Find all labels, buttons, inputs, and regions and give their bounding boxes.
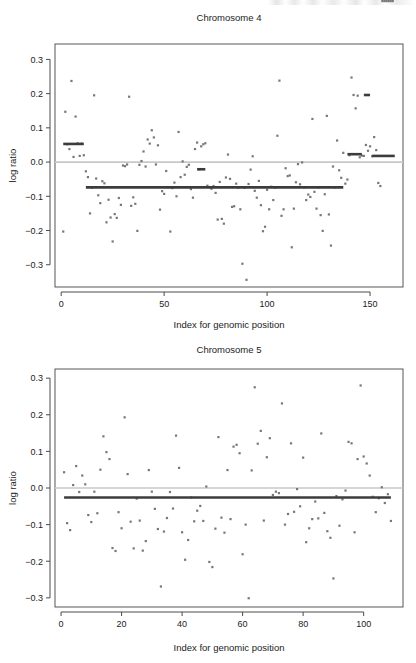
- data-point: [72, 484, 74, 486]
- data-point: [177, 131, 179, 133]
- data-point: [301, 161, 303, 163]
- data-point: [105, 451, 107, 453]
- data-point: [103, 182, 105, 184]
- data-point: [161, 190, 163, 192]
- data-point: [114, 213, 116, 215]
- data-point: [252, 155, 254, 157]
- data-point: [355, 107, 357, 109]
- data-point: [172, 507, 174, 509]
- data-point: [159, 209, 161, 211]
- data-point: [142, 150, 144, 152]
- data-point: [268, 208, 270, 210]
- data-point: [383, 0, 385, 2]
- data-point: [202, 520, 204, 522]
- data-point: [326, 530, 328, 532]
- data-point: [184, 174, 186, 176]
- data-point: [387, 0, 389, 2]
- data-point: [336, 139, 338, 141]
- data-point: [105, 221, 107, 223]
- data-point: [120, 204, 122, 206]
- data-point: [149, 142, 151, 144]
- data-point: [311, 518, 313, 520]
- data-point: [293, 511, 295, 513]
- data-point: [369, 145, 371, 147]
- data-point: [151, 491, 153, 493]
- data-point: [293, 208, 295, 210]
- data-point: [296, 488, 298, 490]
- data-point: [96, 512, 98, 514]
- data-point: [229, 178, 231, 180]
- data-point: [233, 205, 235, 207]
- data-point: [217, 436, 219, 438]
- data-point: [93, 94, 95, 96]
- data-point: [81, 474, 83, 476]
- data-point: [367, 150, 369, 152]
- data-point: [117, 511, 119, 513]
- data-point: [250, 169, 252, 171]
- data-point: [278, 80, 280, 82]
- data-point: [357, 95, 359, 97]
- data-point: [238, 452, 240, 454]
- data-point: [330, 244, 332, 246]
- x-tick-label: 50: [159, 299, 169, 309]
- data-point: [280, 215, 282, 217]
- data-point: [385, 0, 387, 2]
- x-tick-label: 150: [363, 299, 378, 309]
- data-point: [299, 183, 301, 185]
- data-point: [178, 467, 180, 469]
- x-tick-label: 100: [260, 299, 275, 309]
- data-point: [377, 182, 379, 184]
- data-point: [299, 505, 301, 507]
- y-tick-label: 0.3: [30, 373, 43, 383]
- data-point: [353, 531, 355, 533]
- data-point: [289, 174, 291, 176]
- data-point: [194, 148, 196, 150]
- data-point: [264, 226, 266, 228]
- data-point: [200, 145, 202, 147]
- data-point: [95, 177, 97, 179]
- data-point: [338, 525, 340, 527]
- chart-panel-chromosome-5: Chromosome 50.30.20.10.0−0.1−0.2−0.30204…: [0, 337, 416, 663]
- data-point: [260, 204, 262, 206]
- data-point: [93, 491, 95, 493]
- data-point: [365, 144, 367, 146]
- data-point: [390, 0, 392, 2]
- scatter-plot-chromosome-4: Chromosome 40.30.20.10.0−0.1−0.2−0.30501…: [0, 0, 416, 340]
- data-point: [226, 469, 228, 471]
- data-point: [63, 471, 65, 473]
- data-point: [169, 230, 171, 232]
- data-point: [262, 230, 264, 232]
- data-point: [287, 513, 289, 515]
- data-point: [169, 491, 171, 493]
- data-point: [116, 217, 118, 219]
- y-tick-label: 0.0: [30, 483, 43, 493]
- data-point: [188, 164, 190, 166]
- data-point: [302, 457, 304, 459]
- data-point: [328, 213, 330, 215]
- data-point: [375, 511, 377, 513]
- data-point: [242, 553, 244, 555]
- chart-panel-chromosome-4: Chromosome 40.30.20.10.0−0.1−0.2−0.30501…: [0, 0, 416, 340]
- data-point: [247, 183, 249, 185]
- data-point: [66, 522, 68, 524]
- data-point: [64, 111, 66, 113]
- x-axis-title: Index for genomic position: [174, 319, 285, 330]
- data-point: [87, 176, 89, 178]
- scatter-plot-chromosome-5: Chromosome 50.30.20.10.0−0.1−0.2−0.30204…: [0, 337, 416, 663]
- data-point: [248, 597, 250, 599]
- figure-page: Chromosome 40.30.20.10.0−0.1−0.2−0.30501…: [0, 0, 416, 663]
- data-point: [251, 469, 253, 471]
- data-point: [322, 230, 324, 232]
- data-point: [332, 577, 334, 579]
- data-point: [140, 160, 142, 162]
- data-point: [344, 489, 346, 491]
- data-point: [70, 80, 72, 82]
- plot-title: Chromosome 5: [197, 344, 262, 355]
- data-point: [278, 492, 280, 494]
- x-tick-label: 60: [238, 619, 248, 629]
- data-point: [163, 530, 165, 532]
- data-point: [239, 208, 241, 210]
- data-point: [223, 223, 225, 225]
- data-point: [118, 197, 120, 199]
- data-point: [221, 218, 223, 220]
